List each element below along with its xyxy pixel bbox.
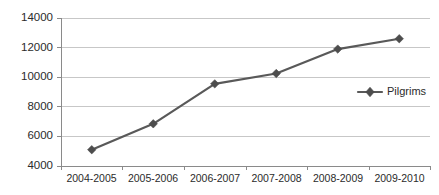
- y-axis-label-4000: 4000: [27, 159, 53, 171]
- legend-label-pilgrims: Pilgrims: [387, 85, 427, 97]
- y-axis-label-14000: 14000: [21, 11, 53, 23]
- y-axis-label-6000: 6000: [27, 129, 53, 141]
- x-axis-label-2008-2009: 2008-2009: [313, 172, 363, 184]
- x-axis-label-2009-2010: 2009-2010: [374, 172, 424, 184]
- chart-canvas: 14000 12000 10000 8000 6000 4000 2004-20…: [0, 0, 439, 195]
- y-axis-label-10000: 10000: [21, 70, 53, 82]
- x-axis-label-2005-2006: 2005-2006: [128, 172, 178, 184]
- line-chart: 14000 12000 10000 8000 6000 4000 2004-20…: [0, 0, 439, 195]
- y-axis-label-12000: 12000: [21, 41, 53, 53]
- y-axis-label-8000: 8000: [27, 100, 53, 112]
- x-axis-label-2006-2007: 2006-2007: [190, 172, 240, 184]
- x-axis-label-2007-2008: 2007-2008: [251, 172, 301, 184]
- x-axis-label-2004-2005: 2004-2005: [66, 172, 116, 184]
